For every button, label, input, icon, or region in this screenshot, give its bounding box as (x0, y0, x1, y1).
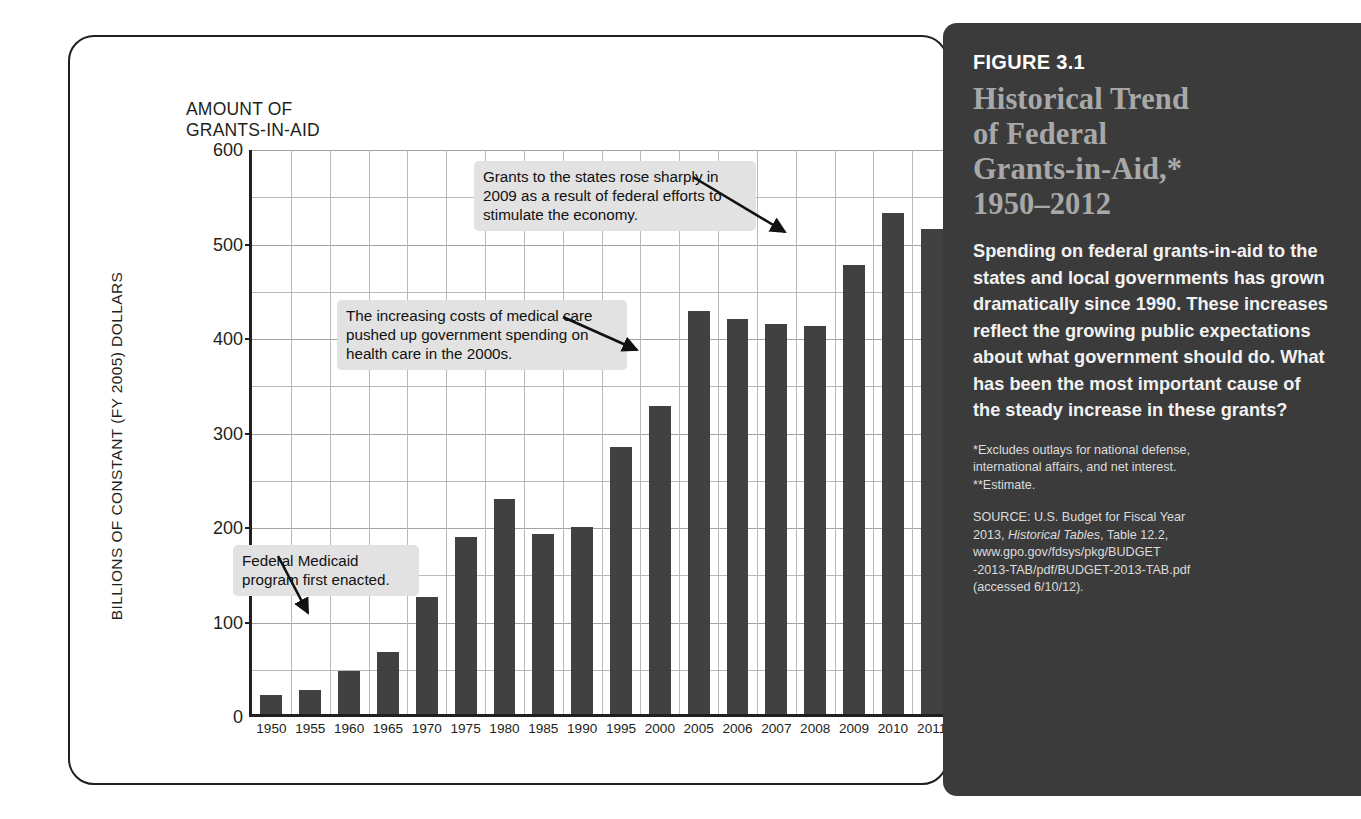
y-axis-tickmark-200 (245, 527, 252, 529)
bar-1990 (571, 527, 593, 714)
annotation-callout-2009: Grants to the states rose sharply in 200… (474, 161, 756, 231)
figure-title: Historical Trend of Federal Grants-in-Ai… (973, 82, 1331, 222)
bar-2008 (804, 326, 826, 714)
bar-1960 (338, 671, 360, 714)
y-axis-tickmark-400 (245, 338, 252, 340)
x-axis-tick-1950: 1950 (256, 721, 286, 736)
x-axis-tick-1990: 1990 (567, 721, 597, 736)
x-axis-tick-1980: 1980 (489, 721, 519, 736)
x-axis-tick-1960: 1960 (334, 721, 364, 736)
y-axis-tickmark-100 (245, 622, 252, 624)
plot-area: 0100200300400500600 19501955196019651970… (249, 150, 987, 717)
bar-1985 (532, 534, 554, 714)
annotation-callout-medicaid: Federal Medicaid program first enacted. (233, 545, 419, 596)
bar-2011 (921, 229, 943, 714)
x-axis-tick-1970: 1970 (412, 721, 442, 736)
figure-number: FIGURE 3.1 (973, 51, 1331, 74)
x-axis-tick-2009: 2009 (839, 721, 869, 736)
bar-1975 (455, 537, 477, 714)
x-axis-tick-1995: 1995 (606, 721, 636, 736)
x-axis-tick-2011: 2011 (917, 721, 946, 736)
bar-1970 (416, 597, 438, 714)
chart-panel: AMOUNT OF GRANTS-IN-AID BILLIONS OF CONS… (68, 35, 948, 785)
y-axis-title: BILLIONS OF CONSTANT (FY 2005) DOLLARS (108, 236, 126, 656)
y-axis-tickmark-300 (245, 433, 252, 435)
figure-container: AMOUNT OF GRANTS-IN-AID BILLIONS OF CONS… (0, 0, 1361, 819)
figure-sidebar: FIGURE 3.1 Historical Trend of Federal G… (943, 23, 1361, 796)
bar-2009 (843, 265, 865, 714)
bar-2006 (727, 319, 749, 714)
annotation-callout-medical: The increasing costs of medical care pus… (337, 300, 627, 370)
figure-source: SOURCE: U.S. Budget for Fiscal Year 2013… (973, 509, 1331, 597)
bar-2000 (649, 406, 671, 714)
y-axis-tick-500: 500 (213, 234, 243, 255)
x-axis-tick-2006: 2006 (722, 721, 752, 736)
x-axis-tick-2005: 2005 (684, 721, 714, 736)
x-axis-tick-1955: 1955 (295, 721, 325, 736)
bar-2010 (882, 213, 904, 714)
bar-2005 (688, 311, 710, 715)
bar-1965 (377, 652, 399, 714)
y-axis-tick-0: 0 (233, 707, 243, 728)
x-axis-tick-1985: 1985 (528, 721, 558, 736)
x-axis-tick-2007: 2007 (761, 721, 791, 736)
figure-footnotes: *Excludes outlays for national defense, … (973, 442, 1331, 495)
bar-1955 (299, 690, 321, 714)
bar-1950 (260, 695, 282, 714)
y-axis-tick-600: 600 (213, 140, 243, 161)
x-axis-tick-2008: 2008 (800, 721, 830, 736)
bar-1995 (610, 447, 632, 714)
bar-2007 (765, 324, 787, 714)
y-axis-tick-400: 400 (213, 329, 243, 350)
y-axis-tick-300: 300 (213, 423, 243, 444)
y-axis-tick-100: 100 (213, 612, 243, 633)
source-italic: Historical Tables (1008, 528, 1100, 542)
bar-series: 1950195519601965197019751980198519901995… (252, 150, 987, 714)
chart-amount-title: AMOUNT OF GRANTS-IN-AID (186, 99, 320, 141)
x-axis-tick-1975: 1975 (451, 721, 481, 736)
y-axis-tick-200: 200 (213, 518, 243, 539)
y-axis-tickmark-500 (245, 244, 252, 246)
x-axis-tick-2010: 2010 (878, 721, 908, 736)
x-axis-tick-1965: 1965 (373, 721, 403, 736)
figure-description: Spending on federal grants-in-aid to the… (973, 238, 1331, 424)
x-axis-tick-2000: 2000 (645, 721, 675, 736)
bar-1980 (494, 499, 516, 714)
